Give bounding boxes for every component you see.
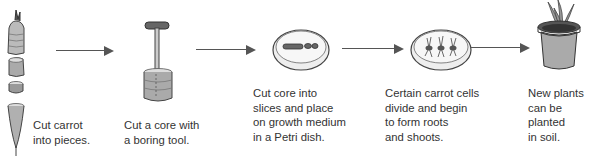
caption-line: Cut carrot — [33, 118, 90, 133]
arrow-shaft — [470, 47, 522, 48]
petri-dish-sprouts-icon — [409, 24, 473, 72]
petri-dish-slices-icon — [271, 26, 331, 72]
carrot-pieces-icon — [4, 8, 28, 156]
step1-caption: Cut carrot into pieces. — [33, 118, 90, 147]
caption-line: on growth medium — [253, 115, 346, 130]
caption-line: can be — [528, 101, 584, 116]
carrot-cloning-diagram: Cut carrot into pieces. Cut a core with … — [0, 0, 594, 158]
caption-line: Cut a core with — [124, 118, 199, 133]
caption-line: in a Petri dish. — [253, 130, 346, 145]
caption-line: into pieces. — [33, 133, 90, 148]
arrow-shaft — [196, 49, 248, 50]
caption-line: a boring tool. — [124, 133, 199, 148]
caption-line: Certain carrot cells — [385, 86, 479, 101]
step2-caption: Cut a core with a boring tool. — [124, 118, 199, 147]
caption-line: and shoots. — [385, 130, 479, 145]
boring-tool-icon — [140, 20, 176, 104]
step4-caption: Certain carrot cells divide and begin to… — [385, 86, 479, 144]
caption-line: to form roots — [385, 115, 479, 130]
caption-line: planted — [528, 115, 584, 130]
caption-line: slices and place — [253, 101, 346, 116]
step5-caption: New plants can be planted in soil. — [528, 86, 584, 144]
caption-line: divide and begin — [385, 101, 479, 116]
arrow-4 — [470, 43, 530, 53]
arrow-1 — [56, 46, 114, 56]
potted-plant-icon — [534, 0, 584, 72]
caption-line: Cut core into — [253, 86, 346, 101]
arrow-head-icon — [104, 46, 114, 56]
arrow-head-icon — [394, 44, 404, 54]
arrow-2 — [196, 45, 256, 55]
arrow-head-icon — [520, 43, 530, 53]
arrow-shaft — [342, 48, 396, 49]
caption-line: New plants — [528, 86, 584, 101]
arrow-3 — [342, 44, 404, 54]
caption-line: in soil. — [528, 130, 584, 145]
step3-caption: Cut core into slices and place on growth… — [253, 86, 346, 144]
arrow-shaft — [56, 50, 106, 51]
arrow-head-icon — [246, 45, 256, 55]
